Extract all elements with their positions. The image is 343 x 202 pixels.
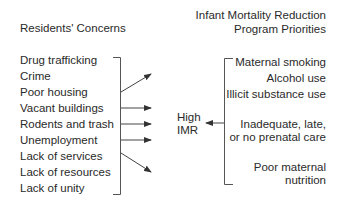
- left-item: Unemployment: [20, 134, 97, 147]
- center-high: High: [177, 111, 201, 124]
- center-imr: IMR: [177, 124, 198, 137]
- right-item: Inadequate, late,: [240, 118, 326, 131]
- right-bracket: [225, 59, 234, 185]
- left-item: Rodents and trash: [20, 118, 114, 131]
- arrow-up-right: [121, 74, 151, 92]
- left-item: Lack of resources: [20, 166, 111, 179]
- right-item: or no prenatal care: [229, 131, 326, 144]
- arrow-down-right: [121, 153, 151, 172]
- right-title-line2: Program Priorities: [234, 23, 326, 36]
- right-item: nutrition: [285, 174, 326, 187]
- right-title-line1: Infant Mortality Reduction: [196, 9, 326, 22]
- left-item: Vacant buildings: [20, 102, 104, 115]
- left-item: Drug trafficking: [20, 54, 97, 67]
- right-item: Illicit substance use: [226, 88, 326, 101]
- left-item: Poor housing: [20, 86, 88, 99]
- left-bracket: [113, 58, 121, 195]
- left-item: Crime: [20, 70, 51, 83]
- left-arrows: [121, 74, 151, 172]
- right-item: Maternal smoking: [235, 56, 326, 69]
- right-item: Alcohol use: [267, 72, 326, 85]
- left-item: Lack of unity: [20, 182, 85, 195]
- left-title: Residents' Concerns: [20, 22, 126, 35]
- right-item: Poor maternal: [254, 161, 326, 174]
- left-item: Lack of services: [20, 150, 102, 163]
